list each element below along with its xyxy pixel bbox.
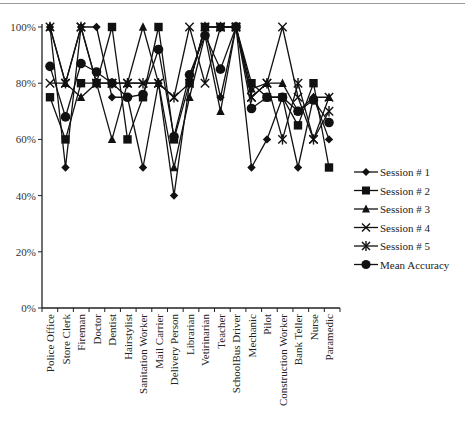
diamond-marker-icon (294, 163, 302, 171)
x-category-label: Dentist (106, 314, 118, 346)
asterisk-marker-icon (170, 92, 178, 102)
x-category-label: Store Clerk (60, 314, 72, 365)
x-category-label: Mail Carrier (153, 314, 165, 369)
legend-label: Session # 3 (380, 203, 431, 215)
legend-item: Session # 1 (354, 166, 430, 178)
x-category-label: Police Office (44, 314, 56, 372)
x-category-label: Pilot (261, 314, 273, 335)
square-marker-icon (61, 135, 69, 143)
diamond-marker-icon (61, 163, 69, 171)
x-category-label: Teacher (215, 314, 227, 349)
diamond-marker-icon (247, 163, 255, 171)
circle-marker-icon (61, 112, 71, 122)
x-category-label: Mechanic (246, 314, 258, 357)
axes: 0%20%40%60%80%100%Police OfficeStore Cle… (10, 21, 340, 406)
diamond-marker-icon (139, 163, 147, 171)
square-marker-icon (325, 163, 333, 171)
circle-marker-icon (216, 64, 226, 74)
y-tick-label: 0% (21, 302, 36, 314)
diamond-marker-icon (263, 135, 271, 143)
square-marker-icon (362, 187, 370, 195)
x-category-label: Sanitation Worker (137, 314, 149, 394)
triangle-marker-icon (108, 135, 116, 143)
circle-marker-icon (45, 62, 55, 72)
triangle-marker-icon (170, 163, 178, 171)
x-category-label: Librarian (184, 314, 196, 355)
x-category-label: Vetirinarian (199, 314, 211, 366)
legend-item: Session # 5 (354, 240, 431, 252)
legend-item: Session # 4 (354, 222, 431, 234)
legend-label: Session # 2 (380, 185, 430, 197)
asterisk-marker-icon (309, 134, 317, 144)
legend-label: Session # 1 (380, 166, 430, 178)
x-category-label: Construction Worker (277, 314, 289, 406)
y-tick-label: 60% (16, 133, 36, 145)
x-category-label: Doctor (91, 314, 103, 345)
square-marker-icon (46, 93, 54, 101)
triangle-marker-icon (216, 107, 224, 115)
diamond-marker-icon (92, 23, 100, 31)
legend-label: Mean Accuracy (380, 259, 450, 271)
circle-marker-icon (309, 95, 319, 105)
x-marker-icon (201, 79, 209, 87)
legend-item: Mean Accuracy (354, 259, 450, 271)
circle-marker-icon (200, 31, 210, 41)
series-lines (45, 22, 334, 200)
x-category-label: Fireman (75, 314, 87, 351)
y-tick-label: 20% (16, 246, 36, 258)
diamond-marker-icon (170, 191, 178, 199)
legend-label: Session # 4 (380, 222, 431, 234)
square-marker-icon (108, 23, 116, 31)
series-session-3 (46, 22, 333, 171)
x-category-label: Bank Teller (292, 314, 304, 366)
diamond-marker-icon (362, 168, 370, 176)
circle-marker-icon (154, 45, 164, 55)
circle-marker-icon (107, 78, 117, 88)
circle-marker-icon (247, 104, 257, 114)
square-marker-icon (154, 23, 162, 31)
square-marker-icon (294, 121, 302, 129)
square-marker-icon (77, 79, 85, 87)
circle-marker-icon (138, 90, 148, 100)
y-tick-label: 80% (16, 77, 36, 89)
square-marker-icon (309, 79, 317, 87)
diamond-marker-icon (325, 135, 333, 143)
circle-marker-icon (278, 92, 288, 102)
x-category-label: Nurse (308, 314, 320, 340)
x-category-label: Delivery Person (168, 314, 180, 386)
y-tick-label: 40% (16, 190, 36, 202)
circle-marker-icon (76, 59, 86, 69)
square-marker-icon (123, 135, 131, 143)
x-category-label: SchoolBus Driver (230, 314, 242, 393)
asterisk-marker-icon (325, 106, 333, 116)
legend-item: Session # 3 (354, 203, 431, 215)
circle-marker-icon (123, 92, 133, 102)
y-tick-label: 100% (10, 21, 36, 33)
circle-marker-icon (361, 260, 370, 269)
circle-marker-icon (92, 67, 102, 77)
circle-marker-icon (169, 132, 179, 142)
circle-marker-icon (185, 70, 195, 80)
triangle-marker-icon (139, 22, 147, 30)
circle-marker-icon (231, 22, 241, 32)
circle-marker-icon (293, 107, 303, 117)
legend-item: Session # 2 (354, 185, 430, 197)
x-category-label: Paramedic (323, 314, 335, 361)
line-chart: 0%20%40%60%80%100%Police OfficeStore Cle… (0, 0, 465, 422)
asterisk-marker-icon (278, 134, 286, 144)
legend: Session # 1Session # 2Session # 3Session… (354, 166, 450, 271)
diamond-marker-icon (108, 93, 116, 101)
legend-label: Session # 5 (380, 240, 431, 252)
circle-marker-icon (324, 118, 334, 128)
circle-marker-icon (262, 92, 272, 102)
x-category-label: Hairstylist (122, 314, 134, 360)
